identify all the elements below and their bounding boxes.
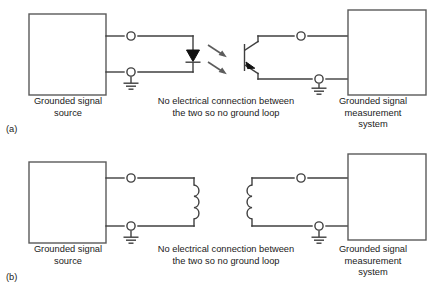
subfigure-label-a: (a) — [6, 124, 17, 135]
measurement-system-label: Grounded signal measurement system — [318, 96, 428, 131]
measurement-system-box — [348, 10, 426, 95]
terminal-node — [315, 222, 323, 230]
terminal-node — [297, 174, 305, 182]
light-ray-icon — [208, 62, 227, 74]
terminal-node — [315, 75, 323, 83]
isolation-figure: Grounded signal source No electrical con… — [0, 0, 435, 296]
transistor-emitter-arrow-icon — [246, 62, 255, 69]
signal-source-label: Grounded signal source — [16, 96, 120, 119]
measurement-system-label: Grounded signal measurement system — [318, 244, 428, 279]
primary-coil-icon — [194, 185, 199, 219]
panel-transformer-isolation: Grounded signal source No electrical con… — [0, 148, 435, 296]
terminal-node — [127, 68, 135, 76]
signal-source-box — [29, 162, 106, 243]
panel-optical-isolation: Grounded signal source No electrical con… — [0, 0, 435, 148]
isolation-note: No electrical connection between the two… — [142, 96, 310, 119]
subfigure-label-b: (b) — [6, 272, 17, 283]
terminal-node — [127, 174, 135, 182]
signal-source-box — [29, 14, 106, 95]
isolation-note: No electrical connection between the two… — [142, 244, 310, 267]
measurement-system-box — [348, 154, 426, 240]
signal-source-label: Grounded signal source — [16, 244, 120, 267]
terminal-node — [297, 32, 305, 40]
terminal-node — [127, 32, 135, 40]
transistor-collector-lead — [245, 42, 258, 51]
secondary-coil-icon — [247, 185, 252, 219]
led-icon — [187, 50, 200, 62]
light-ray-icon — [208, 45, 227, 57]
terminal-node — [127, 222, 135, 230]
